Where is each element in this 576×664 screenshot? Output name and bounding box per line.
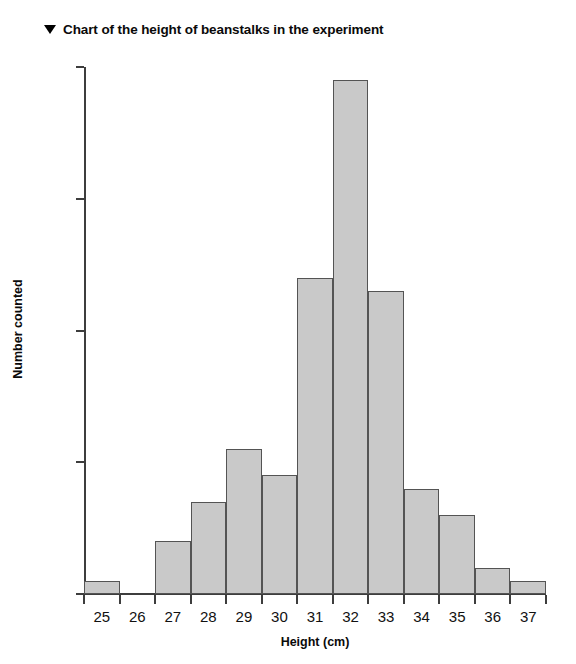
- x-tick-label: 29: [224, 608, 264, 625]
- bar: [226, 449, 262, 594]
- bar: [297, 278, 333, 594]
- y-tick-mark: [76, 66, 84, 68]
- bar: [262, 475, 298, 594]
- x-tick-mark: [190, 595, 192, 604]
- x-tick-mark: [509, 595, 511, 604]
- y-axis-label: Number counted: [11, 249, 25, 409]
- y-tick-mark: [76, 330, 84, 332]
- chart-page: Chart of the height of beanstalks in the…: [0, 0, 576, 664]
- x-tick-mark: [367, 595, 369, 604]
- bar: [333, 80, 369, 594]
- bar: [191, 502, 227, 594]
- y-tick-mark: [76, 198, 84, 200]
- x-tick-label: 33: [366, 608, 406, 625]
- x-tick-label: 31: [295, 608, 335, 625]
- x-tick-mark: [545, 595, 547, 604]
- bar: [510, 581, 546, 594]
- x-tick-mark: [332, 595, 334, 604]
- bar: [368, 291, 404, 594]
- y-axis-line: [84, 67, 86, 595]
- bar: [439, 515, 475, 594]
- chart-plot-area: 010203040 25262728293031323334353637 Num…: [0, 0, 576, 664]
- x-tick-label: 27: [153, 608, 193, 625]
- x-axis-label: Height (cm): [84, 635, 546, 649]
- y-tick-mark: [76, 461, 84, 463]
- x-tick-label: 35: [437, 608, 477, 625]
- x-tick-label: 34: [402, 608, 442, 625]
- bar: [475, 568, 511, 594]
- x-tick-mark: [154, 595, 156, 604]
- x-tick-mark: [296, 595, 298, 604]
- x-tick-mark: [119, 595, 121, 604]
- x-tick-label: 37: [508, 608, 548, 625]
- x-tick-label: 32: [331, 608, 371, 625]
- x-tick-mark: [225, 595, 227, 604]
- x-tick-label: 28: [188, 608, 228, 625]
- bar: [404, 489, 440, 594]
- x-tick-mark: [83, 595, 85, 604]
- x-tick-label: 30: [259, 608, 299, 625]
- x-tick-mark: [438, 595, 440, 604]
- x-tick-mark: [261, 595, 263, 604]
- x-tick-mark: [403, 595, 405, 604]
- x-tick-mark: [474, 595, 476, 604]
- x-tick-label: 26: [117, 608, 157, 625]
- x-tick-label: 36: [473, 608, 513, 625]
- x-tick-label: 25: [82, 608, 122, 625]
- bar: [155, 541, 191, 594]
- bar: [84, 581, 120, 594]
